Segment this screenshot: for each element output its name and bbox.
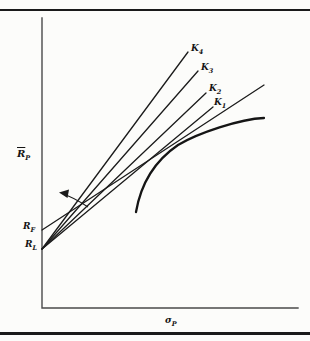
- k2-label-sub: 2: [217, 88, 222, 96]
- rl-intercept-label: RL: [25, 239, 37, 251]
- k2-label: K2: [209, 83, 221, 95]
- y-axis-label: RP: [17, 149, 30, 161]
- k1-label: K1: [214, 97, 226, 109]
- x-axis-label-main: σ: [165, 315, 172, 325]
- x-axis-label-sub: P: [172, 320, 177, 328]
- k3-label-main: K: [201, 62, 209, 72]
- rl-label-sub: L: [32, 244, 37, 252]
- line-k2: [42, 93, 206, 249]
- k4-label: K4: [191, 43, 203, 55]
- k2-label-main: K: [209, 83, 217, 93]
- line-k4: [42, 52, 188, 249]
- line-k1: [42, 107, 213, 249]
- efficient-frontier-curve: [136, 118, 264, 212]
- rf-intercept-label: RF: [23, 221, 35, 233]
- rf-label-sub: F: [30, 226, 35, 234]
- k3-label-sub: 3: [209, 67, 214, 75]
- xy-axes: [42, 18, 298, 308]
- line-rf-tangent: [42, 85, 264, 230]
- k4-label-main: K: [191, 43, 199, 53]
- k4-label-sub: 4: [199, 48, 204, 56]
- k1-label-main: K: [214, 97, 222, 107]
- k1-label-sub: 1: [222, 102, 227, 110]
- x-axis-label: σP: [165, 315, 177, 327]
- rotation-arrow-head-icon: [59, 190, 69, 199]
- chart-plot: [0, 0, 310, 341]
- figure-canvas: RP RF RL K4 K3 K2 K1 σP: [0, 0, 310, 341]
- y-axis-label-sub: P: [25, 154, 30, 162]
- k3-label: K3: [201, 62, 213, 74]
- line-k3: [42, 71, 198, 249]
